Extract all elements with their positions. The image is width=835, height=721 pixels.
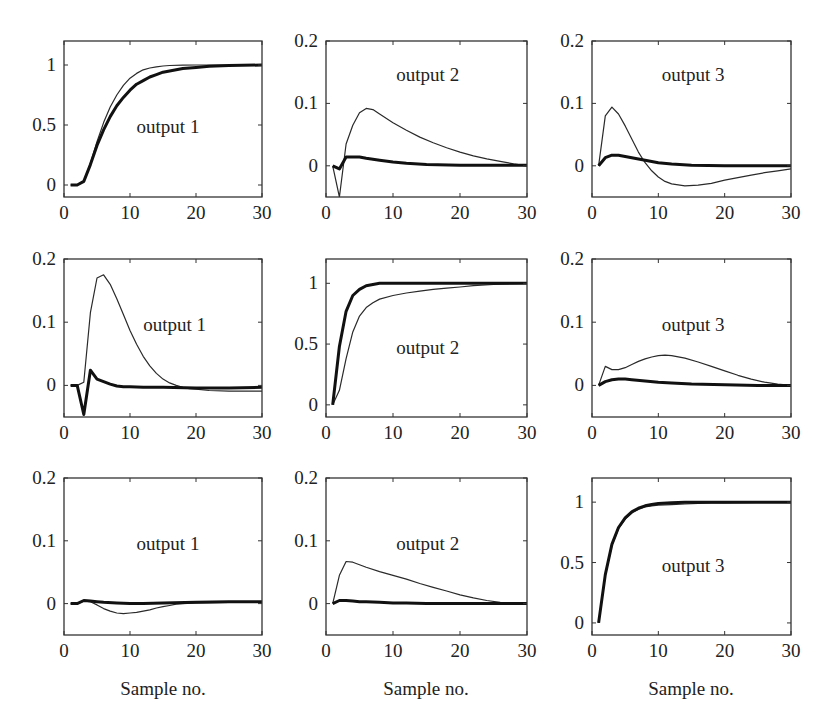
x-tick-label: 20 bbox=[715, 202, 734, 223]
y-tick-label: 0.1 bbox=[32, 311, 56, 332]
series-thin-line bbox=[333, 562, 527, 604]
panel-title: output 2 bbox=[396, 64, 459, 85]
x-tick-label: 0 bbox=[321, 640, 331, 661]
subplot-r2c2: 010203000.51output 2 bbox=[294, 259, 536, 443]
series-thin-line bbox=[599, 107, 791, 186]
x-tick-label: 10 bbox=[384, 640, 403, 661]
y-tick-label: 0.5 bbox=[294, 333, 318, 354]
panel-title: output 3 bbox=[662, 555, 725, 576]
axes-frame bbox=[326, 478, 527, 635]
series-thick-line bbox=[599, 155, 791, 166]
y-tick-label: 0 bbox=[47, 174, 57, 195]
y-tick-label: 0.2 bbox=[560, 248, 584, 269]
panel-title: output 1 bbox=[143, 314, 206, 335]
x-tick-label: 10 bbox=[649, 640, 668, 661]
x-tick-label: 20 bbox=[451, 422, 470, 443]
x-tick-label: 30 bbox=[518, 202, 537, 223]
x-tick-label: 0 bbox=[59, 422, 69, 443]
y-tick-label: 0 bbox=[47, 374, 57, 395]
x-axis-label-col1: Sample no. bbox=[120, 678, 206, 699]
y-tick-label: 0.2 bbox=[560, 30, 584, 51]
subplot-r2c3: 010203000.10.2output 3 bbox=[560, 248, 800, 443]
x-tick-label: 20 bbox=[187, 422, 206, 443]
y-tick-label: 0.1 bbox=[294, 92, 318, 113]
x-tick-label: 20 bbox=[187, 202, 206, 223]
x-tick-label: 20 bbox=[451, 202, 470, 223]
series-thick-line bbox=[71, 601, 262, 604]
y-tick-label: 0 bbox=[575, 155, 585, 176]
x-tick-label: 20 bbox=[187, 640, 206, 661]
y-tick-label: 0.1 bbox=[294, 530, 318, 551]
x-tick-label: 10 bbox=[121, 640, 140, 661]
x-tick-label: 20 bbox=[715, 422, 734, 443]
y-tick-label: 0.1 bbox=[560, 311, 584, 332]
series-thin-line bbox=[333, 108, 527, 197]
y-tick-label: 1 bbox=[575, 491, 585, 512]
x-tick-label: 30 bbox=[253, 202, 272, 223]
y-tick-label: 0 bbox=[47, 593, 57, 614]
y-tick-label: 0 bbox=[309, 394, 319, 415]
subplot-r3c1: 010203000.10.2output 1 bbox=[32, 467, 271, 661]
x-tick-label: 30 bbox=[782, 422, 801, 443]
y-tick-label: 0.5 bbox=[32, 114, 56, 135]
panel-title: output 1 bbox=[137, 533, 200, 554]
subplot-r3c3: 010203000.51output 3 bbox=[560, 478, 800, 661]
x-tick-label: 0 bbox=[321, 422, 331, 443]
y-tick-label: 0 bbox=[575, 612, 585, 633]
y-tick-label: 0.1 bbox=[32, 530, 56, 551]
x-tick-label: 10 bbox=[649, 202, 668, 223]
panel-title: output 2 bbox=[396, 337, 459, 358]
y-tick-label: 0.5 bbox=[560, 552, 584, 573]
y-tick-label: 0 bbox=[309, 155, 319, 176]
x-axis-labels: Sample no. Sample no. Sample no. bbox=[120, 678, 734, 699]
y-tick-label: 0 bbox=[309, 593, 319, 614]
series-thick-line bbox=[333, 157, 527, 169]
x-tick-label: 30 bbox=[518, 422, 537, 443]
y-tick-label: 0.2 bbox=[294, 30, 318, 51]
y-tick-label: 1 bbox=[47, 54, 57, 75]
x-tick-label: 0 bbox=[321, 202, 331, 223]
y-tick-label: 0.2 bbox=[32, 248, 56, 269]
series-thick-line bbox=[71, 370, 262, 414]
subplot-r1c1: 010203000.51output 1 bbox=[32, 41, 271, 223]
x-tick-label: 30 bbox=[782, 202, 801, 223]
subplot-panels: 010203000.51output 1010203000.10.2output… bbox=[32, 30, 800, 661]
x-tick-label: 20 bbox=[451, 640, 470, 661]
x-tick-label: 30 bbox=[253, 640, 272, 661]
x-tick-label: 0 bbox=[587, 202, 597, 223]
axes-frame bbox=[64, 478, 262, 635]
panel-title: output 2 bbox=[396, 533, 459, 554]
x-tick-label: 30 bbox=[253, 422, 272, 443]
subplot-r3c2: 010203000.10.2output 2 bbox=[294, 467, 536, 661]
y-tick-label: 0.2 bbox=[294, 467, 318, 488]
x-tick-label: 20 bbox=[715, 640, 734, 661]
figure-grid: 010203000.51output 1010203000.10.2output… bbox=[0, 0, 835, 721]
x-axis-label-col2: Sample no. bbox=[383, 678, 469, 699]
x-tick-label: 10 bbox=[384, 202, 403, 223]
subplot-r1c3: 010203000.10.2output 3 bbox=[560, 30, 800, 223]
y-tick-label: 0.1 bbox=[560, 92, 584, 113]
axes-frame bbox=[592, 259, 791, 417]
x-tick-label: 10 bbox=[121, 422, 140, 443]
x-tick-label: 30 bbox=[518, 640, 537, 661]
panel-title: output 3 bbox=[662, 64, 725, 85]
x-tick-label: 10 bbox=[649, 422, 668, 443]
series-thin-line bbox=[599, 355, 791, 385]
x-tick-label: 0 bbox=[59, 202, 69, 223]
x-tick-label: 10 bbox=[121, 202, 140, 223]
subplot-r2c1: 010203000.10.2output 1 bbox=[32, 248, 271, 443]
y-tick-label: 0.2 bbox=[32, 467, 56, 488]
panel-title: output 1 bbox=[137, 116, 200, 137]
axes-frame bbox=[64, 259, 262, 417]
y-tick-label: 0 bbox=[575, 374, 585, 395]
x-tick-label: 0 bbox=[587, 422, 597, 443]
x-tick-label: 30 bbox=[782, 640, 801, 661]
x-tick-label: 0 bbox=[59, 640, 69, 661]
x-tick-label: 10 bbox=[384, 422, 403, 443]
panel-title: output 3 bbox=[662, 314, 725, 335]
x-axis-label-col3: Sample no. bbox=[648, 678, 734, 699]
x-tick-label: 0 bbox=[587, 640, 597, 661]
y-tick-label: 1 bbox=[309, 272, 319, 293]
subplot-r1c2: 010203000.10.2output 2 bbox=[294, 30, 536, 223]
